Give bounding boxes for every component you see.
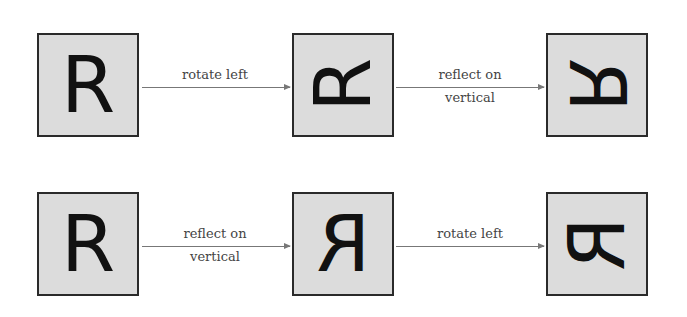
box-row1-result: R bbox=[546, 33, 648, 137]
box-row2-reflected: R bbox=[292, 192, 394, 296]
label-row2-rotate-left: rotate left bbox=[405, 224, 535, 243]
letter-r-reflected-rotated: R bbox=[558, 217, 636, 271]
label-row2-reflect: reflect on vertical bbox=[150, 224, 280, 266]
box-row2-original: R bbox=[37, 192, 139, 296]
letter-r-rotated-reflected: R bbox=[558, 58, 636, 112]
letter-r-original: R bbox=[61, 46, 115, 124]
letter-r-reflected: R bbox=[316, 205, 370, 283]
box-row1-original: R bbox=[37, 33, 139, 137]
letter-r-original: R bbox=[61, 205, 115, 283]
label-row1-reflect: reflect on vertical bbox=[405, 65, 535, 107]
arrow-row2-rotate-left bbox=[396, 246, 544, 247]
letter-r-rotated-left: R bbox=[304, 58, 382, 112]
arrow-row1-rotate-left bbox=[142, 87, 290, 88]
box-row2-result: R bbox=[546, 192, 648, 296]
label-row1-rotate-left: rotate left bbox=[150, 65, 280, 84]
box-row1-rotated: R bbox=[292, 33, 394, 137]
